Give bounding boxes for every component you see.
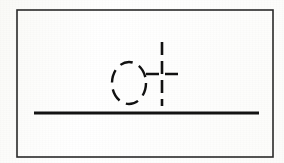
- technical-drawing: [0, 0, 284, 163]
- drawing-canvas: [0, 0, 284, 163]
- dashed-circle-shape: [112, 62, 146, 104]
